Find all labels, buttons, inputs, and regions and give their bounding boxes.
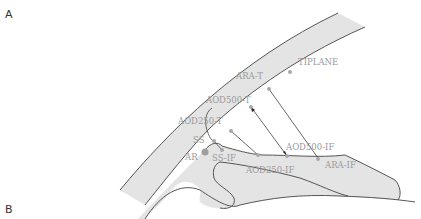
ar-label: AR: [184, 152, 198, 162]
ss-if-label: SS-IF: [212, 153, 236, 163]
ara-if-dot: [316, 157, 320, 161]
tiplane-dot: [288, 70, 292, 74]
aod250-if-label: AOD250-IF: [245, 165, 294, 175]
tiplane-label: TIPLANE: [298, 57, 338, 67]
aod500-measure-line: [251, 107, 287, 156]
ar-dot: [202, 149, 209, 156]
ara-t-label: ARA-T: [235, 71, 263, 81]
aod250-t-dot: [229, 129, 233, 133]
ss-if-dot: [220, 148, 224, 152]
aod500-if-dot: [285, 154, 289, 158]
aod250-if-dot: [256, 153, 260, 157]
ara-t-dot: [267, 87, 271, 91]
ara-if-label: ARA-IF: [324, 160, 356, 170]
aod500-if-label: AOD500-IF: [285, 142, 334, 152]
aod250-t-label: AOD250-T: [177, 116, 223, 126]
ss-label: SS: [193, 135, 205, 145]
angle-diagram: TIPLANE ARA-T AOD500-T AOD250-T SS AR SS…: [0, 0, 421, 219]
aod500-t-label: AOD500-T: [205, 95, 251, 105]
ss-dot: [212, 139, 216, 143]
aod500-t-dot: [249, 105, 253, 109]
